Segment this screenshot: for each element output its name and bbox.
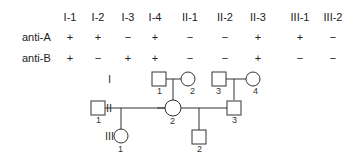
female-iii-1 xyxy=(114,129,128,143)
female-ii-2 xyxy=(165,100,181,116)
female-i-2 xyxy=(181,72,195,86)
id-label: 4 xyxy=(253,86,258,96)
id-label: 3 xyxy=(232,115,237,125)
generation-label: III xyxy=(105,130,114,142)
id-label: 1 xyxy=(157,86,162,96)
male-ii-3 xyxy=(227,101,241,115)
id-label: 2 xyxy=(190,86,195,96)
male-i-3 xyxy=(212,72,226,86)
id-label: 2 xyxy=(170,116,175,126)
id-label: 2 xyxy=(197,144,202,154)
male-iii-2 xyxy=(192,130,206,144)
male-ii-1 xyxy=(91,101,105,115)
id-label: 3 xyxy=(216,86,221,96)
id-label: 1 xyxy=(118,144,123,154)
pedigree-chart: I II III 1 2 3 4 1 2 3 1 2 xyxy=(0,0,354,157)
generation-label: I xyxy=(108,73,111,85)
male-i-1 xyxy=(152,72,166,86)
generation-label: II xyxy=(106,102,112,114)
female-i-4 xyxy=(246,72,260,86)
id-label: 1 xyxy=(96,115,101,125)
